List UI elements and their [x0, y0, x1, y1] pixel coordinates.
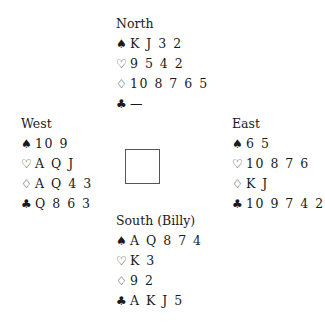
- spade-icon: ♠: [21, 134, 35, 154]
- diamond-icon: ♢: [116, 271, 130, 291]
- east-label: East: [232, 114, 325, 134]
- club-icon: ♣: [116, 291, 130, 311]
- diamond-icon: ♢: [21, 174, 35, 194]
- south-hand: South (Billy) ♠A Q 8 7 4 ♡K 3 ♢9 2 ♣A K …: [116, 211, 203, 311]
- west-spades-row: ♠10 9: [21, 134, 93, 154]
- north-spades-row: ♠K J 3 2: [116, 34, 209, 54]
- north-clubs-row: ♣—: [116, 94, 209, 114]
- north-diamonds-row: ♢10 8 7 6 5: [116, 74, 209, 94]
- east-clubs-row: ♣10 9 7 4 2: [232, 194, 325, 214]
- club-icon: ♣: [116, 94, 130, 114]
- north-hand: North ♠K J 3 2 ♡9 5 4 2 ♢10 8 7 6 5 ♣—: [116, 14, 209, 114]
- west-diamonds-row: ♢A Q 4 3: [21, 174, 93, 194]
- spade-icon: ♠: [116, 34, 130, 54]
- diamond-icon: ♢: [232, 174, 246, 194]
- north-label: North: [116, 14, 209, 34]
- club-icon: ♣: [21, 194, 35, 214]
- west-clubs-row: ♣Q 8 6 3: [21, 194, 93, 214]
- bridge-table: [125, 149, 160, 184]
- east-spades-row: ♠6 5: [232, 134, 325, 154]
- south-spades-row: ♠A Q 8 7 4: [116, 231, 203, 251]
- south-hearts-row: ♡K 3: [116, 251, 203, 271]
- east-diamonds-row: ♢K J: [232, 174, 325, 194]
- north-hearts-row: ♡9 5 4 2: [116, 54, 209, 74]
- heart-icon: ♡: [21, 154, 35, 174]
- south-clubs-row: ♣A K J 5: [116, 291, 203, 311]
- south-diamonds-row: ♢9 2: [116, 271, 203, 291]
- heart-icon: ♡: [116, 54, 130, 74]
- diamond-icon: ♢: [116, 74, 130, 94]
- spade-icon: ♠: [232, 134, 246, 154]
- west-hearts-row: ♡A Q J: [21, 154, 93, 174]
- heart-icon: ♡: [116, 251, 130, 271]
- east-hearts-row: ♡10 8 7 6: [232, 154, 325, 174]
- south-label: South (Billy): [116, 211, 203, 231]
- heart-icon: ♡: [232, 154, 246, 174]
- west-hand: West ♠10 9 ♡A Q J ♢A Q 4 3 ♣Q 8 6 3: [21, 114, 93, 214]
- west-label: West: [21, 114, 93, 134]
- east-hand: East ♠6 5 ♡10 8 7 6 ♢K J ♣10 9 7 4 2: [232, 114, 325, 214]
- spade-icon: ♠: [116, 231, 130, 251]
- club-icon: ♣: [232, 194, 246, 214]
